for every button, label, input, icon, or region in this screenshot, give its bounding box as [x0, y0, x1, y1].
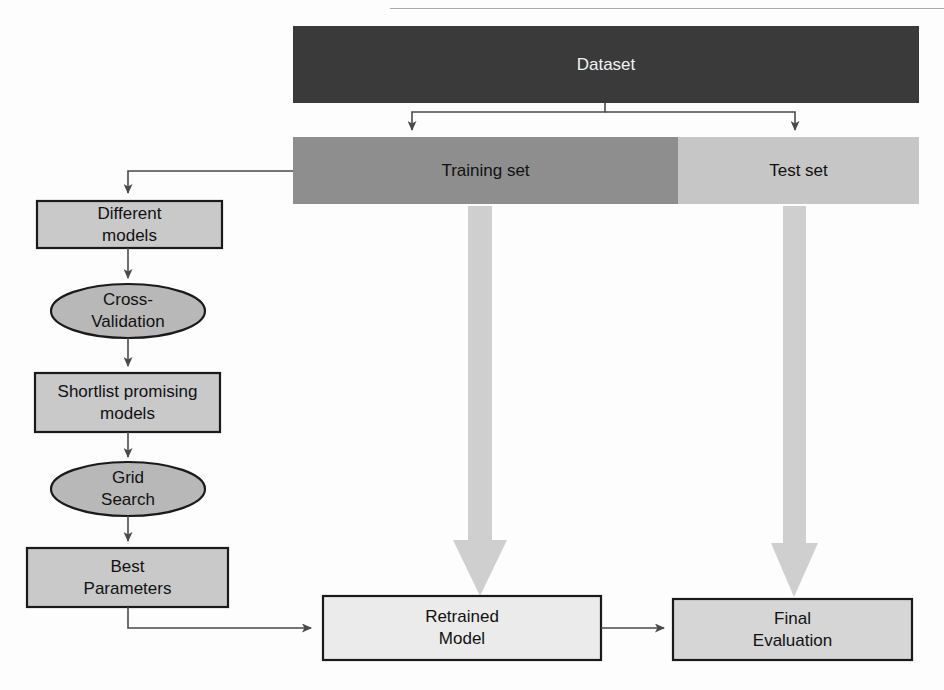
node-retrained-model[interactable]: [323, 596, 601, 660]
node-cross-validation[interactable]: [51, 284, 205, 338]
diagram-graphics: [0, 0, 944, 690]
diagram-canvas: Dataset Training set Test set Different …: [0, 0, 944, 690]
node-best-parameters[interactable]: [27, 548, 228, 607]
node-dataset[interactable]: [293, 26, 919, 103]
node-grid-search[interactable]: [51, 462, 205, 516]
edge-dataset-to-training-set: [412, 103, 605, 130]
edge-dataset-to-test-set: [605, 112, 795, 130]
edge-training-set-to-different-models: [128, 171, 293, 193]
edge-test-set-to-final-evaluation: [771, 206, 818, 597]
node-final-evaluation[interactable]: [673, 599, 912, 660]
node-test-set[interactable]: [678, 137, 919, 204]
node-training-set[interactable]: [293, 137, 678, 204]
edge-best-parameters-to-retrained-model: [128, 607, 311, 628]
node-shortlist-models[interactable]: [35, 373, 220, 432]
edge-training-set-to-retrained-model: [453, 206, 507, 596]
node-different-models[interactable]: [37, 201, 222, 248]
